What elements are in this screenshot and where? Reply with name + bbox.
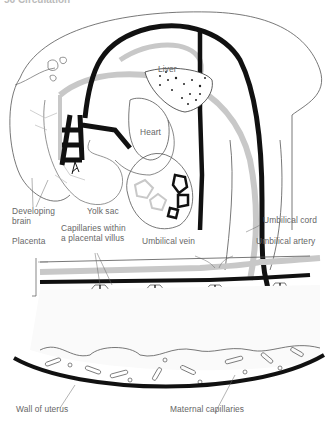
label-developing-brain-line2: brain [12,216,31,226]
chorionic-vein-band [40,258,320,272]
label-developing-brain-line1: Developing [12,206,55,216]
fetal-circulation-diagram: 56 Circulation [0,0,334,425]
label-maternal-capillaries: Maternal capillaries [170,404,244,414]
chorionic-artery-band [40,275,310,282]
umbilical-vein-vessel [60,74,256,280]
label-capillaries-line1: Capillaries within [61,223,126,233]
label-wall-of-uterus: Wall of uterus [16,404,68,414]
label-placenta: Placenta [12,236,45,246]
label-heart: Heart [140,127,161,137]
placenta-bracket [32,258,36,296]
label-umbilical-vein: Umbilical vein [142,236,195,246]
label-umbilical-artery: Umbilical artery [256,236,315,246]
label-yolk-sac: Yolk sac [87,206,119,216]
aortic-arches [62,115,130,165]
decidua [30,285,320,370]
label-umbilical-cord: Umbilical cord [263,215,317,225]
label-liver: Liver [158,64,177,74]
label-capillaries-line2: a placental villus [61,233,124,243]
